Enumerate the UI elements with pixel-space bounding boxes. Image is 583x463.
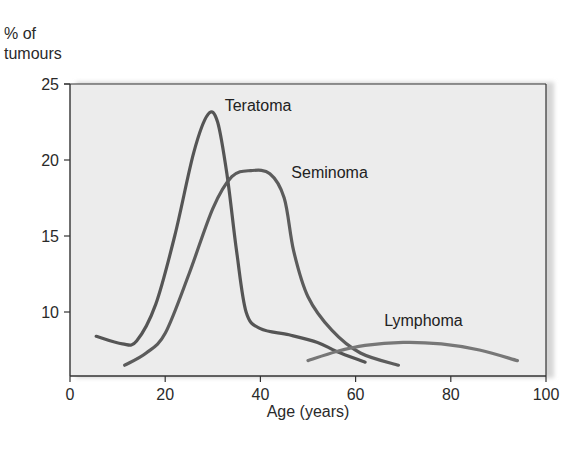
y-tick-label: 20 [41,152,59,169]
x-tick-label: 100 [533,386,560,403]
seminoma-label: Seminoma [291,164,368,181]
x-tick-label: 40 [252,386,270,403]
x-tick-label: 20 [156,386,174,403]
y-tick-label: 25 [41,76,59,93]
x-tick-label: 60 [347,386,365,403]
teratoma-label: Teratoma [225,97,292,114]
y-tick-label: 10 [41,304,59,321]
chart: 02040608010010152025 TeratomaSeminomaLym… [0,0,583,463]
x-axis-title: Age (years) [267,403,350,420]
y-axis-title-line-2: tumours [4,45,62,62]
y-axis-title-line-1: % of [4,25,37,42]
x-tick-label: 0 [66,386,75,403]
lymphoma-label: Lymphoma [384,312,463,329]
x-tick-label: 80 [442,386,460,403]
y-tick-label: 15 [41,228,59,245]
